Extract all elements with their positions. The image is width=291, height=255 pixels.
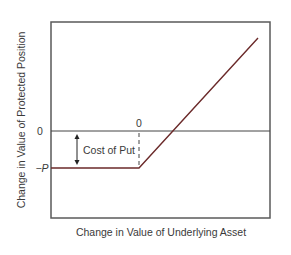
cost-of-put-label: Cost of Put	[83, 144, 135, 156]
x-tick-zero: 0	[136, 117, 142, 129]
plot-frame	[51, 22, 270, 218]
x-axis-label: Change in Value of Underlying Asset	[76, 226, 246, 238]
y-tick-negP: −P	[35, 162, 48, 174]
protective-put-chart: Cost of Put 0 −P 0 Change in Value of Un…	[0, 0, 291, 255]
y-tick-zero: 0	[37, 125, 43, 137]
y-axis-label: Change in Value of Protected Position	[15, 32, 27, 209]
